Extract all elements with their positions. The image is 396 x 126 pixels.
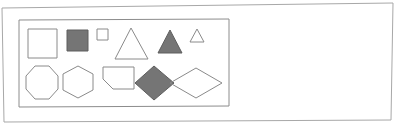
- square-medium-filled: [67, 30, 88, 51]
- worksheet-canvas: [0, 0, 396, 126]
